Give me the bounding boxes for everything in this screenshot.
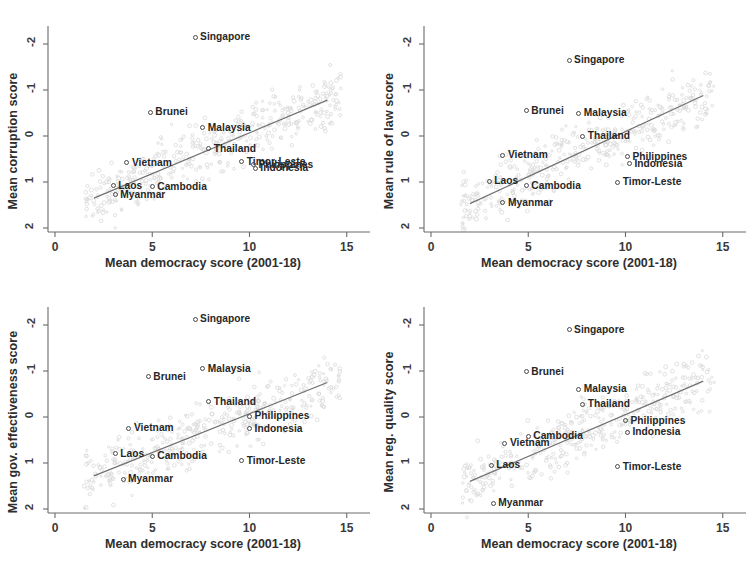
x-tick-label: 5: [515, 521, 541, 535]
data-point-marker: [247, 426, 252, 431]
y-tick-label: 0: [402, 409, 408, 421]
x-tick-label: 0: [42, 521, 68, 535]
y-tick-label-text: 1: [23, 458, 35, 464]
x-tick-label: 10: [237, 240, 263, 254]
y-axis-title-text: Mean gov. effectiveness score: [6, 330, 20, 513]
y-axis-title: Mean reg. quality score: [378, 281, 400, 562]
scatter-panel: Mean rule of law score210-1-2051015Mean …: [376, 0, 752, 281]
x-tick-label: 15: [334, 240, 360, 254]
y-tick-label: 2: [26, 220, 32, 232]
data-point-marker: [487, 179, 492, 184]
data-point-label: Vietnam: [134, 422, 174, 433]
data-point-label: Timor-Leste: [623, 461, 682, 472]
plot-canvas: [376, 281, 752, 562]
x-tick-label: 0: [418, 521, 444, 535]
y-tick-label-text: -2: [25, 37, 37, 47]
data-point-label: Brunei: [155, 106, 188, 117]
plot-canvas: [0, 0, 376, 281]
x-tick-label: 15: [710, 240, 736, 254]
data-point-label: Singapore: [574, 54, 624, 65]
data-point-label: Thailand: [588, 398, 630, 409]
y-tick-label-text: 2: [23, 504, 35, 510]
y-tick-label-text: -1: [401, 364, 413, 374]
y-tick-label-text: 2: [399, 223, 411, 229]
x-tick-label: 15: [334, 521, 360, 535]
y-tick-label-text: -1: [401, 83, 413, 93]
data-point-label: Thailand: [214, 143, 256, 154]
data-point-label: Laos: [494, 175, 518, 186]
x-tick-label: 15: [710, 521, 736, 535]
y-tick-label: 1: [26, 455, 32, 467]
data-point-marker: [489, 463, 494, 468]
scatter-plot-grid: Mean corruption score210-1-2051015Mean d…: [0, 0, 752, 562]
data-point-label: Vietnam: [132, 157, 172, 168]
data-point-marker: [253, 166, 258, 171]
x-tick-label: 10: [237, 521, 263, 535]
data-point-label: Laos: [120, 448, 144, 459]
data-point-marker: [580, 402, 585, 407]
y-axis-title-text: Mean rule of law score: [382, 72, 396, 208]
y-tick-label-text: -2: [25, 318, 37, 328]
data-point-label: Indonesia: [634, 158, 682, 169]
y-tick-label: 1: [402, 455, 408, 467]
y-tick-label-text: 1: [23, 177, 35, 183]
y-tick-label: 1: [26, 174, 32, 186]
y-tick-label-text: -1: [25, 364, 37, 374]
data-point-marker: [247, 414, 252, 419]
x-axis-title: Mean democracy score (2001-18): [406, 256, 752, 270]
x-tick-label: 10: [613, 240, 639, 254]
y-tick-label-text: 2: [399, 504, 411, 510]
data-point-label: Singapore: [200, 31, 250, 42]
data-point-label: Cambodia: [531, 180, 581, 191]
scatter-panel: Mean reg. quality score210-1-2051015Mean…: [376, 281, 752, 562]
y-tick-label: -2: [26, 317, 36, 329]
data-point-label: Vietnam: [508, 149, 548, 160]
x-tick-label: 5: [139, 240, 165, 254]
data-point-label: Singapore: [574, 324, 624, 335]
plot-canvas: [0, 281, 376, 562]
plot-canvas: [376, 0, 752, 281]
data-point-label: Thailand: [588, 130, 630, 141]
y-tick-label-text: -2: [401, 37, 413, 47]
data-point-label: Brunei: [531, 366, 564, 377]
y-tick-label: 1: [402, 174, 408, 186]
data-point-label: Laos: [496, 459, 520, 470]
data-point-label: Malaysia: [208, 122, 251, 133]
y-tick-label: -1: [26, 363, 36, 375]
data-point-marker: [491, 501, 496, 506]
y-tick-label: 2: [402, 501, 408, 513]
data-point-label: Indonesia: [255, 423, 303, 434]
x-tick-label: 10: [613, 521, 639, 535]
y-tick-label-text: 2: [23, 223, 35, 229]
data-point-marker: [567, 58, 572, 63]
y-tick-label: -1: [402, 363, 412, 375]
data-point-label: Philippines: [255, 410, 310, 421]
data-point-label: Philippines: [631, 415, 686, 426]
data-point-label: Malaysia: [584, 107, 627, 118]
data-point-marker: [524, 108, 529, 113]
data-point-label: Timor-Leste: [247, 455, 306, 466]
y-axis-title: Mean gov. effectiveness score: [2, 281, 24, 562]
data-point-label: Brunei: [531, 105, 564, 116]
y-tick-label: -2: [402, 317, 412, 329]
y-tick-label: 2: [402, 220, 408, 232]
data-point-marker: [148, 110, 153, 115]
data-point-label: Indonesia: [632, 426, 680, 437]
y-tick-label: -1: [402, 82, 412, 94]
data-point-marker: [567, 327, 572, 332]
data-point-label: Thailand: [214, 396, 256, 407]
data-point-label: Timor-Leste: [623, 176, 682, 187]
y-tick-label-text: 0: [23, 131, 35, 137]
data-point-marker: [615, 180, 620, 185]
data-point-marker: [111, 183, 116, 188]
data-point-label: Cambodia: [157, 450, 207, 461]
data-point-label: Vietnam: [510, 437, 550, 448]
data-point-marker: [193, 35, 198, 40]
scatter-panel: Mean gov. effectiveness score210-1-20510…: [0, 281, 376, 562]
data-point-label: Myanmar: [498, 497, 543, 508]
y-tick-label-text: 0: [23, 412, 35, 418]
data-point-label: Malaysia: [208, 363, 251, 374]
y-axis-title-text: Mean corruption score: [6, 72, 20, 209]
y-tick-label: 0: [26, 128, 32, 140]
y-tick-label-text: 1: [399, 458, 411, 464]
